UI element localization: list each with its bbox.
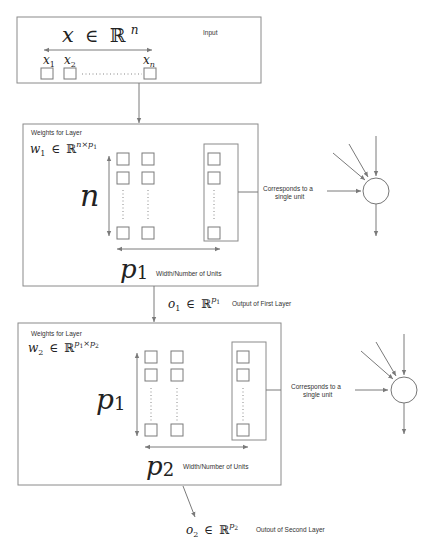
layer2-cols-label: p2: [146, 451, 174, 481]
layer2-cell: [237, 351, 249, 363]
layer2-rows-label: p1: [96, 383, 125, 416]
input-element-x1-label: x1: [43, 53, 55, 69]
input-cell-1: [41, 68, 53, 79]
layer2-cell: [237, 424, 249, 436]
input-label: Input: [203, 29, 218, 37]
layer1-weight-formula: w1 ∈ ℝn×p1: [30, 140, 97, 159]
layer2-cell: [171, 424, 183, 436]
layer2-cell: [237, 369, 249, 381]
output2-label: Outout of Second Layer: [256, 526, 325, 534]
layer2-block: Weights for Layer w2 ∈ ℝp1×p2 p1 p2 Widt…: [18, 323, 281, 485]
neuron-2: [355, 334, 417, 434]
layer2-cols-desc: Width/Number of Units: [183, 463, 249, 470]
neuron-1: [327, 136, 389, 236]
output1-formula: o1 ∈ ℝp1: [168, 295, 220, 314]
input-block: x ∈ ℝ n Input x1 x2 xn: [17, 17, 261, 83]
layer2-to-output2-arrow: [183, 486, 195, 517]
layer1-cell: [117, 153, 129, 165]
neuron1-circle: [363, 178, 389, 204]
layer2-weight-formula: w2 ∈ ℝp1×p2: [28, 339, 99, 358]
input-cell-n: [144, 68, 156, 79]
layer1-cell: [208, 172, 220, 184]
neuron1-input-arrow: [349, 144, 368, 177]
layer2-cell: [145, 424, 157, 436]
layer2-cell: [145, 351, 157, 363]
layer1-cell: [117, 227, 129, 239]
layer1-cell: [142, 172, 154, 184]
layer2-unit-note-line2: single unit: [303, 391, 332, 399]
layer1-cell: [142, 153, 154, 165]
input-element-xn-label: xn: [143, 53, 155, 69]
layer1-rows-label: n: [80, 178, 99, 213]
input-element-x2-label: x2: [64, 53, 76, 69]
layer1-cols-desc: Width/Number of Units: [156, 270, 222, 277]
output1-label: Output of First Layer: [232, 300, 292, 308]
layer2-cell: [171, 369, 183, 381]
neuron2-input-arrow: [376, 342, 396, 376]
layer1-cell: [117, 172, 129, 184]
neuron2-input-arrow: [361, 351, 393, 379]
neuron2-circle: [391, 377, 417, 403]
neural-network-diagram: x ∈ ℝ n Input x1 x2 xn Weights for Layer…: [0, 0, 431, 556]
layer2-cell: [145, 369, 157, 381]
layer2-title: Weights for Layer: [31, 330, 83, 338]
neuron1-input-arrow: [333, 153, 365, 180]
layer2-cell: [171, 351, 183, 363]
input-cell-2: [64, 68, 76, 79]
layer1-unit-note-line1: Corresponds to a: [263, 185, 313, 193]
layer1-unit-note-line2: single unit: [275, 193, 304, 201]
layer1-cell: [208, 227, 220, 239]
output2-formula: o2 ∈ ℝp2: [186, 521, 238, 540]
layer1-title: Weights for Layer: [31, 129, 83, 137]
layer2-unit-note-line1: Corresponds to a: [291, 383, 341, 391]
layer1-cell: [208, 153, 220, 165]
layer1-block: Weights for Layer w1 ∈ ℝn×p1 n p1 Width/…: [23, 124, 258, 286]
layer1-cell: [142, 227, 154, 239]
input-formula: x ∈ ℝ n: [62, 23, 138, 47]
layer1-cols-label: p1: [120, 254, 148, 284]
